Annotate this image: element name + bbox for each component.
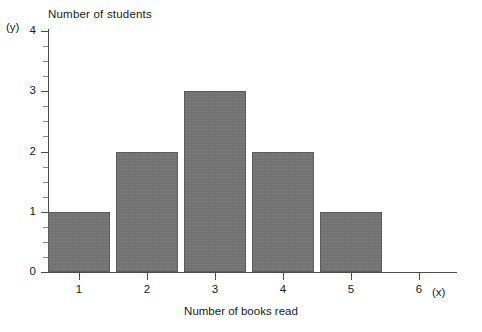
x-axis-line	[48, 272, 457, 273]
y-tick-major	[41, 212, 48, 213]
y-tick-label: 3	[12, 84, 36, 96]
x-tick-label: 3	[203, 283, 227, 295]
y-tick-minor	[43, 182, 48, 183]
y-tick-minor	[43, 76, 48, 77]
x-tick-label: 6	[407, 283, 431, 295]
y-tick-minor	[43, 167, 48, 168]
x-tick	[215, 273, 216, 280]
x-tick-label: 2	[135, 283, 159, 295]
y-tick-major	[41, 272, 48, 273]
bar	[184, 91, 246, 272]
y-tick-major	[41, 152, 48, 153]
y-tick-major	[41, 91, 48, 92]
y-tick-minor	[43, 61, 48, 62]
bar	[320, 212, 382, 272]
chart-title: Number of students	[48, 8, 152, 20]
bar	[252, 152, 314, 273]
y-tick-label: 1	[12, 205, 36, 217]
x-tick	[351, 273, 352, 280]
y-tick-label: 2	[12, 145, 36, 157]
x-tick	[283, 273, 284, 280]
x-axis-label: Number of books read	[0, 305, 482, 317]
bar	[48, 212, 110, 272]
y-tick-label: 0	[12, 265, 36, 277]
y-tick-label: 4	[12, 24, 36, 36]
x-tick-label: 5	[339, 283, 363, 295]
chart-screenshot: Number of students (y) (x) 01234 123456 …	[0, 0, 482, 332]
y-tick-major	[41, 31, 48, 32]
x-tick	[79, 273, 80, 280]
y-tick-minor	[43, 106, 48, 107]
y-tick-minor	[43, 121, 48, 122]
x-tick	[147, 273, 148, 280]
y-tick-minor	[43, 136, 48, 137]
x-axis-name: (x)	[432, 286, 445, 298]
x-tick-label: 1	[67, 283, 91, 295]
y-tick-minor	[43, 197, 48, 198]
y-tick-minor	[43, 46, 48, 47]
x-tick-label: 4	[271, 283, 295, 295]
x-tick	[419, 273, 420, 280]
bar	[116, 152, 178, 273]
